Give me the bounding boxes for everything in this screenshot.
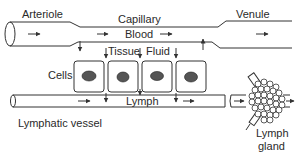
venule-label: Venule xyxy=(236,9,270,20)
arteriole-opening xyxy=(5,22,15,46)
lymph-gland-label-line1: Lymph xyxy=(256,128,289,139)
capillary-label: Capillary xyxy=(118,14,161,25)
fluid-label: Fluid xyxy=(146,46,170,57)
tissue-label: Tissue xyxy=(108,46,140,57)
cell-nuclei xyxy=(82,71,198,82)
lymph-label: Lymph xyxy=(126,96,159,107)
lymphatic-vessel-label: Lymphatic vessel xyxy=(18,118,102,129)
cells-label: Cells xyxy=(48,70,72,81)
arteriole-label: Arteriole xyxy=(22,9,63,20)
lymph-gland-label-line2: gland xyxy=(258,141,285,152)
blood-label: Blood xyxy=(125,29,153,40)
